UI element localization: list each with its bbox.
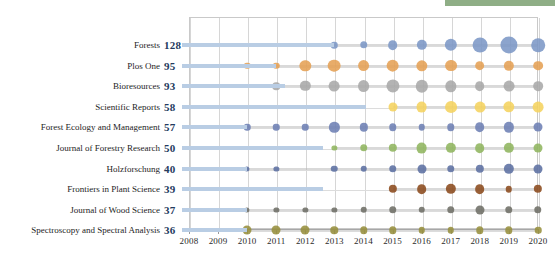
- category-total-value: 95: [164, 60, 176, 72]
- data-bubble: [475, 205, 484, 214]
- data-bubble: [386, 59, 399, 72]
- lead-in-bar: [182, 187, 323, 191]
- lead-in-bar: [182, 43, 334, 47]
- category-label: Plos One: [127, 61, 160, 71]
- data-bubble: [533, 123, 542, 132]
- data-bubble: [301, 226, 310, 235]
- data-bubble: [475, 61, 485, 71]
- data-bubble: [388, 40, 398, 50]
- data-bubble: [534, 206, 541, 213]
- category-total-value: 50: [164, 142, 176, 154]
- lead-in-bar: [182, 208, 247, 212]
- category-label: Holzforschung: [107, 164, 161, 174]
- lead-in-bar: [182, 146, 323, 150]
- data-bubble: [476, 227, 483, 234]
- data-bubble: [418, 227, 425, 234]
- data-bubble: [475, 81, 485, 91]
- data-bubble: [533, 101, 544, 112]
- data-bubble: [474, 101, 485, 112]
- gridline-vertical: [306, 18, 307, 228]
- category-total-value: 36: [164, 224, 176, 236]
- data-bubble: [360, 207, 367, 214]
- data-bubble: [445, 60, 457, 72]
- data-bubble: [505, 227, 512, 234]
- category-total-value: 93: [164, 80, 176, 92]
- data-bubble: [533, 81, 543, 91]
- gridline-vertical: [248, 18, 249, 228]
- data-bubble: [504, 81, 515, 92]
- data-bubble: [418, 124, 425, 131]
- x-axis-tick-label: 2020: [518, 236, 555, 246]
- category-total-value: 37: [164, 204, 176, 216]
- lead-in-bar: [182, 105, 366, 109]
- data-bubble: [506, 186, 513, 193]
- data-bubble: [273, 124, 280, 131]
- category-label: Scientific Reports: [95, 102, 160, 112]
- gridline-vertical: [277, 18, 278, 228]
- data-bubble: [416, 101, 427, 112]
- data-bubble: [475, 184, 485, 194]
- data-bubble: [360, 227, 367, 234]
- data-bubble: [331, 165, 338, 172]
- lead-in-bar: [182, 64, 276, 68]
- data-bubble: [417, 184, 427, 194]
- data-bubble: [358, 80, 370, 92]
- chart-canvas: ForestsPlos OneBioresourcesScientific Re…: [0, 0, 555, 276]
- series-connector-line: [393, 106, 538, 107]
- category-label: Journal of Forestry Research: [56, 143, 160, 153]
- data-bubble: [329, 81, 340, 92]
- series-connector-line: [393, 189, 538, 190]
- data-bubble: [475, 123, 485, 133]
- lead-in-bar: [182, 125, 247, 129]
- series-connector-line: [276, 86, 538, 87]
- data-bubble: [475, 143, 485, 153]
- category-label: Journal of Wood Science: [70, 205, 160, 215]
- lead-in-bar: [182, 84, 285, 88]
- data-bubble: [533, 61, 543, 71]
- data-bubble: [531, 38, 545, 52]
- data-bubble: [331, 227, 338, 234]
- data-bubble: [533, 143, 542, 152]
- data-bubble: [388, 102, 397, 111]
- category-total-value: 128: [164, 39, 181, 51]
- data-bubble: [418, 207, 425, 214]
- data-bubble: [417, 164, 426, 173]
- data-bubble: [389, 227, 396, 234]
- data-bubble: [535, 227, 542, 234]
- data-bubble: [272, 226, 281, 235]
- data-bubble: [416, 143, 427, 154]
- data-bubble: [360, 165, 367, 172]
- category-label: Frontiers in Plant Science: [67, 184, 160, 194]
- gridline-vertical: [219, 18, 220, 228]
- category-total-value: 39: [164, 183, 176, 195]
- data-bubble: [302, 124, 309, 131]
- category-label: Bioresources: [113, 81, 160, 91]
- category-total-value: 57: [164, 121, 176, 133]
- category-label: Forest Ecology and Management: [41, 122, 160, 132]
- category-label: Spectroscopy and Spectral Analysis: [31, 225, 160, 235]
- data-bubble: [472, 38, 487, 53]
- data-bubble: [358, 60, 370, 72]
- data-bubble: [445, 101, 457, 113]
- data-bubble: [533, 164, 542, 173]
- gridline-vertical: [190, 18, 191, 228]
- category-total-value: 58: [164, 101, 176, 113]
- data-bubble: [448, 227, 455, 234]
- top-accent-bar: [445, 0, 555, 6]
- data-bubble: [328, 59, 341, 72]
- category-label-column: ForestsPlos OneBioresourcesScientific Re…: [0, 0, 160, 276]
- category-total-value: 40: [164, 163, 176, 175]
- category-label: Forests: [134, 40, 160, 50]
- lead-in-bar: [182, 228, 247, 232]
- data-bubble: [534, 185, 542, 193]
- lead-in-bar: [182, 167, 247, 171]
